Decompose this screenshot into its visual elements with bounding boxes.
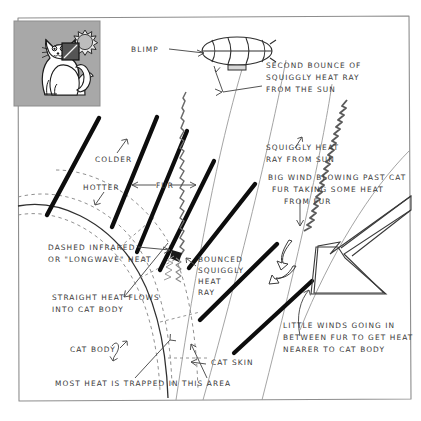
svg-text:SQUIGGLY HEAT: SQUIGGLY HEAT xyxy=(266,143,339,152)
label-bounced-ray: BOUNCED SQUIGGLY HEAT RAY xyxy=(198,255,244,297)
label-colder: COLDER xyxy=(95,155,132,164)
small-curved-hollow-arrow-icon xyxy=(277,240,292,270)
svg-text:LITTLE WINDS GOING IN: LITTLE WINDS GOING IN xyxy=(283,321,395,330)
magnified-fur-region-callout xyxy=(62,43,79,60)
label-hotter: HOTTER xyxy=(83,183,120,192)
svg-text:SECOND BOUNCE OF: SECOND BOUNCE OF xyxy=(266,61,361,70)
squiggly-incoming-heat-ray xyxy=(304,100,347,231)
svg-text:SQUIGGLY HEAT RAY: SQUIGGLY HEAT RAY xyxy=(266,73,360,82)
svg-text:RAY: RAY xyxy=(198,288,215,297)
diagram-canvas: BLIMP SECOND BOUNCE OF SQUIGGLY HEAT RAY… xyxy=(0,0,421,421)
svg-text:INTO CAT BODY: INTO CAT BODY xyxy=(52,305,124,314)
svg-text:HEAT: HEAT xyxy=(198,277,222,286)
skin-radiating-dashes xyxy=(120,216,210,358)
fur-strands xyxy=(47,117,312,353)
dashed-infrared-arcs xyxy=(18,170,198,392)
label-cat-body: CAT BODY xyxy=(70,345,116,354)
label-blimp: BLIMP xyxy=(131,45,159,54)
svg-text:SQUIGGLY: SQUIGGLY xyxy=(198,266,244,275)
label-fur: FUR xyxy=(156,181,174,190)
svg-text:FUR TAKING SOME HEAT: FUR TAKING SOME HEAT xyxy=(272,185,384,194)
svg-text:STRAIGHT HEAT FLOWS: STRAIGHT HEAT FLOWS xyxy=(52,293,160,302)
label-squiggly-ray: SQUIGGLY HEAT RAY FROM SUN xyxy=(266,143,339,164)
label-second-bounce: SECOND BOUNCE OF SQUIGGLY HEAT RAY FROM … xyxy=(266,61,361,94)
svg-text:BETWEEN FUR TO GET HEAT: BETWEEN FUR TO GET HEAT xyxy=(283,333,413,342)
svg-text:BIG WIND BLOWING PAST CAT: BIG WIND BLOWING PAST CAT xyxy=(268,173,406,182)
svg-text:DASHED INFRARED: DASHED INFRARED xyxy=(48,243,135,252)
svg-text:OR "LONGWAVE" HEAT: OR "LONGWAVE" HEAT xyxy=(48,255,152,264)
label-most-heat-trapped: MOST HEAT IS TRAPPED IN THIS AREA xyxy=(55,379,231,388)
label-straight-heat: STRAIGHT HEAT FLOWS INTO CAT BODY xyxy=(52,293,160,314)
label-little-winds: LITTLE WINDS GOING IN BETWEEN FUR TO GET… xyxy=(283,321,413,354)
svg-text:RAY FROM SUN: RAY FROM SUN xyxy=(266,155,335,164)
svg-text:FROM THE SUN: FROM THE SUN xyxy=(266,85,336,94)
svg-text:NEARER TO CAT BODY: NEARER TO CAT BODY xyxy=(283,345,385,354)
blimp-icon xyxy=(202,37,276,70)
svg-text:BOUNCED: BOUNCED xyxy=(198,255,243,264)
label-cat-skin: CAT SKIN xyxy=(211,358,254,367)
cat-with-sun-inset xyxy=(14,21,100,106)
label-big-wind: BIG WIND BLOWING PAST CAT FUR TAKING SOM… xyxy=(268,173,406,206)
svg-text:FROM FUR: FROM FUR xyxy=(284,197,332,206)
